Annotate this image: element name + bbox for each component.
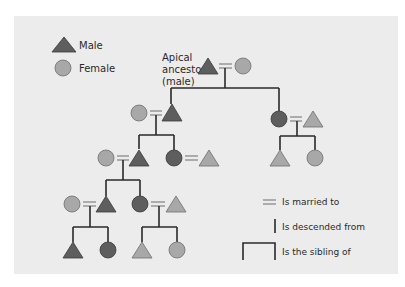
generation-4: [64, 196, 186, 242]
legend-male-label: Male: [79, 40, 103, 51]
male-icon: [162, 104, 182, 121]
generation-3-right: [270, 150, 323, 166]
generation-3-left: [98, 150, 219, 196]
apical-wife-female-icon: [235, 58, 251, 74]
key-descended-label: Is descended from: [282, 222, 365, 232]
generation-2-right: [271, 111, 323, 150]
male-icon: [63, 242, 83, 258]
kinship-diagram: .ln { stroke:#2a2a2a; stroke-width:1.6; …: [0, 0, 405, 287]
generation-5: [63, 242, 185, 258]
female-icon: [132, 196, 148, 212]
female-icon: [131, 105, 147, 121]
female-icon: [98, 150, 114, 166]
sibling-symbol-icon: [243, 243, 275, 260]
male-icon: [129, 150, 149, 166]
male-icon: [166, 196, 186, 212]
female-icon: [169, 242, 185, 258]
male-icon: [199, 150, 219, 166]
female-icon: [271, 111, 287, 127]
legend-female-label: Female: [79, 63, 115, 74]
male-icon: [132, 242, 152, 258]
male-icon: [96, 196, 116, 212]
key-sibling-label: Is the sibling of: [282, 247, 352, 257]
female-circle-icon: [55, 60, 71, 76]
female-icon: [100, 242, 116, 258]
male-icon: [303, 111, 323, 127]
legend: Male Female: [52, 37, 115, 76]
key-married-label: Is married to: [282, 197, 340, 207]
male-triangle-icon: [52, 37, 76, 52]
apical-ancestor-label: Apical ancestor (male): [162, 52, 206, 87]
svg-text:Apical: Apical: [162, 52, 192, 63]
female-icon: [166, 150, 182, 166]
male-icon: [270, 150, 290, 166]
female-icon: [64, 196, 80, 212]
svg-text:(male): (male): [162, 76, 195, 87]
symbol-key: Is married to Is descended from Is the s…: [243, 197, 365, 260]
generation-2-left: [131, 104, 182, 150]
female-icon: [307, 150, 323, 166]
